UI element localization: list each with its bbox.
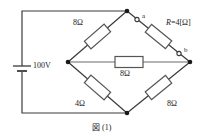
resistor-bottom-right-label: 8Ω bbox=[167, 100, 177, 108]
variable-resistor-label: R=4[Ω] bbox=[166, 19, 191, 27]
resistor-bottom-right-body bbox=[145, 75, 171, 99]
source-voltage-label: 100V bbox=[33, 62, 51, 70]
node-bottom bbox=[125, 111, 130, 116]
variable-resistor-value: =4[Ω] bbox=[171, 18, 191, 27]
terminal-a-marker bbox=[135, 17, 139, 21]
terminal-a-label: a bbox=[142, 13, 145, 20]
resistor-bottom-left-body bbox=[84, 75, 110, 100]
resistor-bottom-left-label: 4Ω bbox=[75, 100, 85, 108]
terminal-b-label: b bbox=[184, 47, 188, 54]
resistor-bridge-body bbox=[115, 57, 143, 68]
resistor-top-left-body bbox=[84, 24, 110, 49]
node-right bbox=[188, 60, 193, 65]
terminal-b-marker bbox=[177, 51, 181, 55]
resistor-bridge-label: 8Ω bbox=[120, 70, 130, 78]
node-left bbox=[66, 60, 71, 65]
resistor-top-left-label: 8Ω bbox=[73, 19, 83, 27]
node-top bbox=[125, 9, 130, 14]
figure-caption: 図 (1) bbox=[92, 124, 111, 132]
battery-symbol bbox=[13, 66, 31, 71]
circuit-figure: 100V 8Ω 4Ω 8Ω 8Ω R=4[Ω] a b 図 (1) bbox=[0, 0, 221, 139]
resistor-R-body bbox=[145, 24, 171, 48]
